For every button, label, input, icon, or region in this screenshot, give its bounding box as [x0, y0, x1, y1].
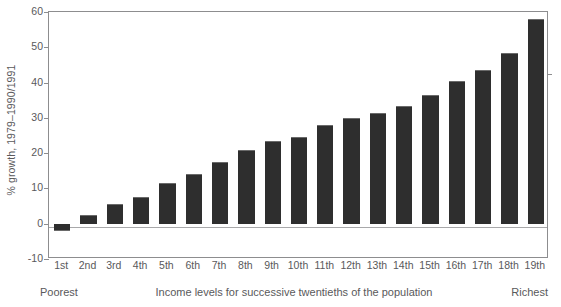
bar: [475, 70, 491, 223]
y-tick-mark: [44, 47, 49, 48]
y-tick-mark: [44, 118, 49, 119]
bar-series: [49, 12, 547, 257]
y-tick-label: 40: [31, 76, 43, 88]
y-tick-label: 50: [31, 40, 43, 52]
bar: [238, 150, 254, 224]
plot-area: [48, 11, 548, 258]
y-axis-title-text: % growth, 1979–1990/1991: [5, 65, 17, 196]
y-tick-mark: [44, 83, 49, 84]
x-tick-label: 15th: [419, 259, 439, 271]
bar: [133, 197, 149, 223]
y-tick-mark: [44, 153, 49, 154]
x-tick-label: 1st: [54, 259, 68, 271]
x-tick-label: 4th: [133, 259, 148, 271]
x-tick-label: 19th: [525, 259, 545, 271]
y-axis-title: % growth, 1979–1990/1991: [0, 0, 22, 260]
bar: [212, 162, 228, 224]
y-tick-mark: [44, 12, 49, 13]
y-tick-label: 10: [31, 181, 43, 193]
y-tick-label: 60: [31, 5, 43, 17]
bar: [159, 183, 175, 224]
bar: [80, 215, 96, 224]
bar: [54, 224, 70, 231]
x-tick-label: 16th: [446, 259, 466, 271]
bar: [343, 118, 359, 224]
bar: [186, 174, 202, 223]
bar: [317, 125, 333, 224]
caption-axis-title: Income levels for successive twentieths …: [156, 286, 433, 298]
x-tick-label: 6th: [185, 259, 200, 271]
x-tick-label: 12th: [340, 259, 360, 271]
x-axis-tick-labels: 1st2nd3rd4th5th6th7th8th9th10th11th12th1…: [48, 259, 548, 275]
x-tick-label: 18th: [498, 259, 518, 271]
bar: [265, 141, 281, 224]
y-tick-label: 30: [31, 111, 43, 123]
x-tick-label: 5th: [159, 259, 174, 271]
y-tick-label: 0: [37, 217, 43, 229]
y-tick-label: 20: [31, 146, 43, 158]
x-tick-label: 2nd: [79, 259, 97, 271]
x-tick-label: 14th: [393, 259, 413, 271]
bar: [370, 113, 386, 224]
x-axis-caption: Poorest Income levels for successive twe…: [40, 286, 548, 302]
y-tick-label: -10: [28, 252, 43, 264]
x-tick-label: 8th: [238, 259, 253, 271]
x-tick-label: 11th: [314, 259, 334, 271]
x-tick-label: 13th: [367, 259, 387, 271]
bar: [422, 95, 438, 224]
x-tick-label: 7th: [212, 259, 227, 271]
bar: [449, 81, 465, 224]
x-tick-label: 17th: [472, 259, 492, 271]
x-tick-label: 3rd: [106, 259, 121, 271]
chart-figure: % growth, 1979–1990/1991 -10010203040506…: [0, 0, 561, 307]
caption-poorest: Poorest: [40, 286, 78, 298]
bar: [501, 53, 517, 224]
bar: [107, 204, 123, 223]
bar: [528, 19, 544, 224]
bar: [291, 137, 307, 223]
y-axis-tick-labels: -100102030405060: [20, 0, 46, 270]
caption-richest: Richest: [511, 286, 548, 298]
x-tick-label: 10th: [288, 259, 308, 271]
bar: [396, 106, 412, 224]
y-tick-mark: [44, 188, 49, 189]
right-axis-tick: [547, 74, 552, 75]
x-tick-label: 9th: [264, 259, 279, 271]
y-tick-mark: [44, 224, 49, 225]
